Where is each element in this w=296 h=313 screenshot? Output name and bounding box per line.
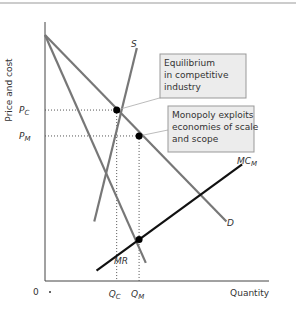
point-mr-mc-intersection: [136, 236, 143, 243]
y-axis-label: Price and cost: [4, 58, 14, 122]
x-tick-label-1: QM: [131, 289, 144, 301]
x-tick-label-0: QC: [109, 289, 121, 301]
x-axis-label: Quantity: [230, 288, 270, 298]
point-monopoly-price: [136, 132, 143, 139]
point-competitive-equilibrium: [113, 107, 120, 114]
chart: DMRSMCMPCPMQCQM0QuantityPrice and costEq…: [0, 0, 296, 313]
annotation-0-line-1: in competitive: [164, 70, 229, 80]
annotation-1-line-0: Monopoly exploits: [172, 110, 254, 120]
annotation-0-line-0: Equilibrium: [164, 58, 215, 68]
curve-mc: [97, 164, 243, 270]
curve-label-s: S: [131, 39, 137, 49]
y-tick-label-0: PC: [19, 105, 29, 117]
leader-line-1: [139, 130, 168, 136]
curve-label-mr: MR: [114, 256, 128, 266]
y-tick-label-1: PM: [19, 131, 30, 143]
annotation-1-line-1: economies of scale: [172, 122, 259, 132]
annotation-0-line-2: industry: [164, 82, 202, 92]
curve-label-d: D: [227, 218, 234, 228]
origin-label: 0: [33, 287, 39, 297]
annotation-1-line-2: and scope: [172, 134, 219, 144]
origin-dot: [49, 291, 51, 293]
